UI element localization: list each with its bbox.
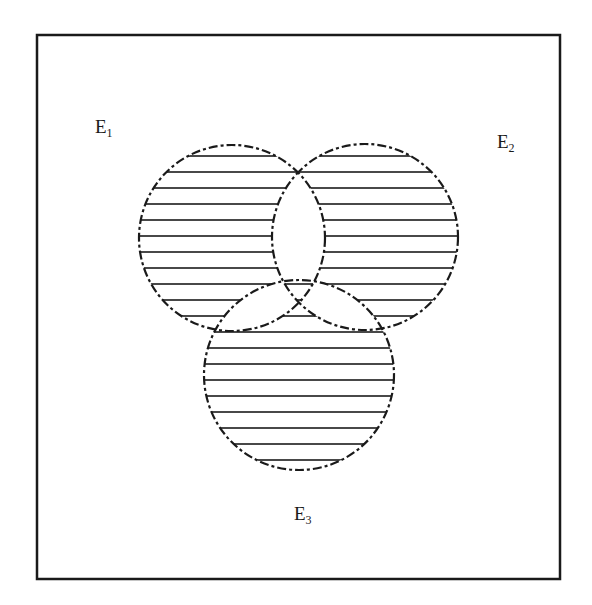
set-e3-letter: E [294,503,306,524]
set-e1-subscript: 1 [107,126,113,140]
set-e2-subscript: 2 [509,141,515,155]
set-e2-label: E2 [497,132,515,154]
set-e1-label: E1 [95,117,113,139]
set-e3-subscript: 3 [306,513,312,527]
set-e3-label: E3 [294,504,312,526]
set-e1-letter: E [95,116,107,137]
set-e2-letter: E [497,131,509,152]
